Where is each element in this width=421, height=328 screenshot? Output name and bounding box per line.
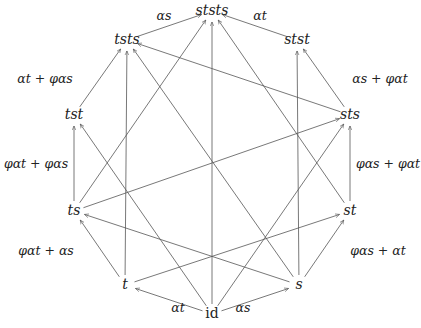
edge-label: αs <box>236 300 251 315</box>
edge-s-to-st <box>305 220 344 277</box>
edge-label: αt + φαs <box>17 71 73 86</box>
edge-label: αs + φαt <box>352 71 408 86</box>
edge-t-to-st <box>134 214 339 281</box>
edge-tst-to-tsts <box>80 49 121 107</box>
edge-id-to-sts <box>218 124 344 306</box>
node-stst: stst <box>284 31 310 47</box>
edge-label: φαs + φαt <box>356 156 421 171</box>
edge-label: αs <box>157 8 172 23</box>
bruhat-graph: idtstssttststststsststststs αtαsφαt + αs… <box>0 0 421 328</box>
edge-label: φαs + αt <box>350 243 406 258</box>
edge-ts-to-sts <box>83 119 339 208</box>
node-ts: ts <box>68 202 81 218</box>
edge-t-to-tsts <box>125 51 127 275</box>
edge-s-to-stst <box>297 51 299 275</box>
node-sts: sts <box>340 106 360 122</box>
edge-s-to-ts <box>84 214 289 281</box>
edge-label: φαt + αs <box>18 243 74 258</box>
node-t: t <box>122 276 128 292</box>
edge-label: αt <box>171 300 185 315</box>
edge-id-to-t <box>135 288 202 310</box>
edge-sts-to-tsts <box>137 44 340 112</box>
edge-ts-to-ststs <box>80 20 206 203</box>
edge-id-to-s <box>221 288 288 310</box>
node-s: s <box>295 276 302 292</box>
edge-label: αt <box>253 8 267 23</box>
edge-sts-to-stst <box>303 49 344 107</box>
edge-t-to-ts <box>80 220 119 277</box>
edge-label: φαt + φαs <box>4 156 68 171</box>
edge-id-to-tst <box>80 124 206 306</box>
node-id: id <box>205 305 218 321</box>
edges <box>74 15 350 311</box>
edge-st-to-ststs <box>218 20 344 203</box>
node-tst: tst <box>65 106 84 122</box>
node-st: st <box>344 202 357 218</box>
node-tsts: tsts <box>114 31 140 47</box>
node-ststs: ststs <box>196 2 229 18</box>
